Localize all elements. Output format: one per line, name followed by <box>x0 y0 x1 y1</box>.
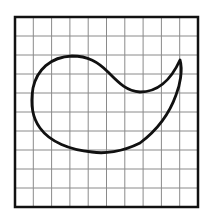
paisley-grid-diagram <box>0 0 209 215</box>
grid-figure <box>0 0 209 215</box>
grid-lines <box>15 17 198 207</box>
